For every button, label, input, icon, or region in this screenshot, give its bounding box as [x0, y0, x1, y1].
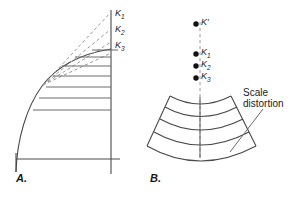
- band-arc-2: [165, 107, 237, 117]
- dot-k3: [193, 75, 198, 80]
- panel-b-point-dots: [193, 21, 198, 80]
- dot-k-prime: [193, 21, 198, 26]
- panel-b-k3-label: K3: [201, 72, 211, 84]
- panel-b-band-arcs: [147, 96, 256, 161]
- panel-b-caption: B.: [150, 173, 161, 185]
- dot-k2: [193, 63, 198, 68]
- panel-a-caption: A.: [16, 173, 27, 185]
- band-arc-4: [154, 132, 249, 145]
- scale-distortion-line1: Scale: [243, 88, 268, 99]
- figure-container: K1 K2 K3 A. K′ K1 K2 K3 Scale distortion…: [0, 0, 297, 197]
- panel-a-k2-label: K2: [115, 25, 125, 37]
- dot-k1: [193, 51, 198, 56]
- scale-distortion-line2: distortion: [243, 99, 284, 110]
- panel-b-k1-label: K1: [201, 48, 211, 60]
- band-arc-3: [160, 119, 243, 130]
- scale-distortion-leader-line: [230, 109, 263, 152]
- panel-b-k2-label: K2: [201, 60, 211, 72]
- band-arc-bottom: [147, 146, 256, 161]
- panel-a-k3-label: K3: [115, 41, 125, 53]
- panel-b-k-prime-label: K′: [201, 18, 209, 30]
- panel-a-k1-label: K1: [115, 9, 125, 21]
